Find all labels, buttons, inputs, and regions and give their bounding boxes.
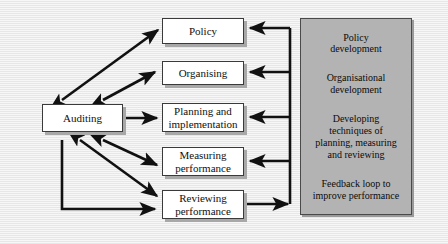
panel-line-developing-techniques: Developing techniques of planning, measu…	[302, 113, 410, 160]
node-organising-label: Organising	[177, 67, 230, 79]
connector-auditing-measuring	[103, 140, 157, 165]
node-measuring-performance[interactable]: Measuring performance	[162, 147, 244, 176]
node-planning-and-implementation-label: Planning and implementation	[166, 105, 239, 130]
diagram-canvas: Policy Organising Planning and implement…	[0, 0, 448, 244]
connector-auditing-reviewing-bus	[62, 140, 155, 209]
connector-auditing-reviewing	[80, 140, 157, 196]
panel-line-policy-development: Policy development	[302, 32, 410, 56]
connector-auditing-policy	[62, 30, 158, 100]
node-measuring-performance-label: Measuring performance	[173, 149, 233, 174]
node-auditing-label: Auditing	[61, 112, 104, 124]
node-reviewing-performance[interactable]: Reviewing performance	[162, 190, 244, 219]
node-policy[interactable]: Policy	[162, 18, 244, 44]
connector-auditing-organising	[103, 72, 155, 100]
panel-line-organisational-development: Organisational development	[302, 72, 410, 96]
node-planning-and-implementation[interactable]: Planning and implementation	[162, 103, 244, 132]
panel-line-feedback-loop: Feedback loop to improve performance	[302, 178, 410, 202]
node-organising[interactable]: Organising	[162, 61, 244, 85]
node-reviewing-performance-label: Reviewing performance	[173, 192, 233, 217]
node-auditing[interactable]: Auditing	[42, 104, 123, 132]
feedback-outcomes-panel: Policy development Organisational develo…	[300, 18, 412, 215]
node-policy-label: Policy	[187, 25, 219, 37]
